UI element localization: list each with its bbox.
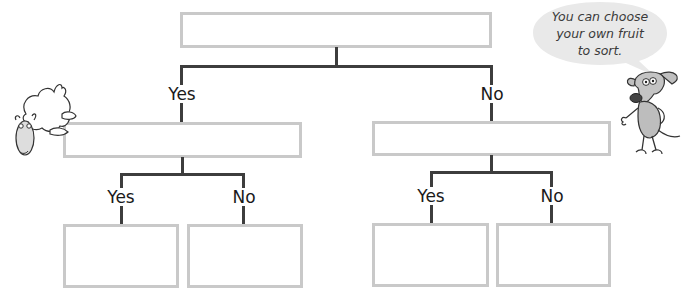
dog-icon xyxy=(620,64,686,158)
speech-line: You can choose xyxy=(531,8,669,25)
branch-label-right-no: No xyxy=(539,187,564,205)
speech-bubble-text: You can choose your own fruit to sort. xyxy=(531,8,669,59)
branch-label-no: No xyxy=(479,85,504,103)
no-box[interactable] xyxy=(372,121,611,156)
sheep-icon xyxy=(6,74,78,164)
speech-line: to sort. xyxy=(531,42,669,59)
decision-tree-diagram: Yes No Yes No Yes No You can choose your… xyxy=(0,0,689,295)
branch-label-left-yes: Yes xyxy=(106,188,135,206)
connector-root-bar xyxy=(180,65,493,68)
branch-label-right-yes: Yes xyxy=(416,187,445,205)
connector-left-bar xyxy=(120,173,245,176)
root-box[interactable] xyxy=(180,12,492,48)
yes-box[interactable] xyxy=(63,122,302,158)
leaf-box-no-yes[interactable] xyxy=(372,223,489,287)
leaf-box-no-no[interactable] xyxy=(496,223,611,287)
connector-root-stem xyxy=(335,47,338,67)
leaf-box-yes-yes[interactable] xyxy=(63,224,179,288)
branch-label-yes: Yes xyxy=(167,85,196,103)
leaf-box-yes-no[interactable] xyxy=(187,224,303,288)
branch-label-left-no: No xyxy=(231,188,256,206)
speech-line: your own fruit xyxy=(531,25,669,42)
connector-right-bar xyxy=(430,171,553,174)
